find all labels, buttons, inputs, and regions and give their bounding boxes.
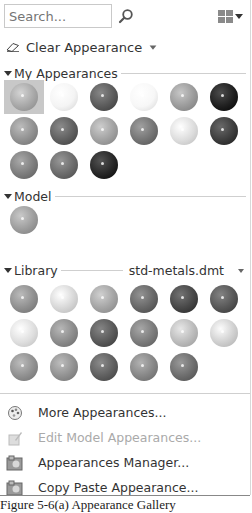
collapse-triangle-icon[interactable] <box>4 194 12 199</box>
menu-item-appearances-manager[interactable]: Appearances Manager... <box>0 450 250 475</box>
gallery-menu: More Appearances... Edit Model Appearanc… <box>0 400 250 500</box>
appearance-swatch[interactable] <box>84 148 124 182</box>
section-header-model[interactable]: Model <box>4 189 246 204</box>
search-icon[interactable] <box>118 8 134 24</box>
chevron-down-icon[interactable] <box>150 45 157 49</box>
clear-appearance-label: Clear Appearance <box>26 40 142 55</box>
sphere-icon <box>130 319 158 347</box>
appearance-gallery-panel: Clear Appearance My Appearances Model Li… <box>0 0 251 495</box>
eraser-icon <box>6 42 20 52</box>
appearance-swatch[interactable] <box>84 350 124 384</box>
sphere-icon <box>170 83 198 111</box>
appearance-swatch[interactable] <box>204 282 244 316</box>
appearance-swatch[interactable] <box>4 282 44 316</box>
sphere-icon <box>170 319 198 347</box>
section-header-my-appearances[interactable]: My Appearances <box>4 66 246 81</box>
chevron-down-icon[interactable] <box>238 269 244 273</box>
appearance-swatch[interactable] <box>44 350 84 384</box>
appearance-swatch[interactable] <box>84 114 124 148</box>
sphere-icon <box>130 83 158 111</box>
menu-item-edit-model-appearances[interactable]: Edit Model Appearances... <box>0 425 250 450</box>
appearance-swatch[interactable] <box>204 80 244 114</box>
sphere-icon <box>10 206 38 234</box>
section-header-library[interactable]: Library std-metals.dmt <box>4 263 246 278</box>
appearance-swatch[interactable] <box>84 316 124 350</box>
menu-item-more-appearances[interactable]: More Appearances... <box>0 400 250 425</box>
appearance-swatch[interactable] <box>124 350 164 384</box>
appearance-swatch[interactable] <box>164 282 204 316</box>
appearance-swatch[interactable] <box>4 148 44 182</box>
collapse-triangle-icon[interactable] <box>4 71 12 76</box>
collapse-triangle-icon[interactable] <box>4 268 12 273</box>
sphere-icon <box>50 285 78 313</box>
appearance-swatch[interactable] <box>4 80 44 114</box>
section-title: My Appearances <box>14 66 118 81</box>
sphere-icon <box>10 319 38 347</box>
library-grid <box>4 282 244 384</box>
sphere-icon <box>50 319 78 347</box>
sphere-icon <box>130 117 158 145</box>
figure-caption: Figure 5-6(a) Appearance Gallery <box>0 497 176 513</box>
sphere-icon <box>130 353 158 381</box>
sphere-icon <box>10 83 38 111</box>
sphere-icon <box>210 285 238 313</box>
search-input[interactable] <box>4 4 112 28</box>
section-title: Library <box>14 263 58 278</box>
appearance-swatch[interactable] <box>164 316 204 350</box>
copy-paste-icon <box>6 479 24 497</box>
sphere-icon <box>210 83 238 111</box>
menu-item-label: More Appearances... <box>38 405 166 420</box>
appearance-swatch[interactable] <box>44 80 84 114</box>
appearance-swatch[interactable] <box>4 203 44 237</box>
gallery-view-button[interactable] <box>218 8 246 24</box>
appearance-manager-icon <box>6 454 24 472</box>
menu-item-label: Appearances Manager... <box>38 455 189 470</box>
sphere-icon <box>90 319 118 347</box>
appearance-swatch[interactable] <box>44 316 84 350</box>
appearance-swatch[interactable] <box>4 114 44 148</box>
appearance-swatch[interactable] <box>204 114 244 148</box>
sphere-icon <box>50 353 78 381</box>
appearance-swatch[interactable] <box>164 80 204 114</box>
menu-divider <box>0 393 250 394</box>
appearance-swatch[interactable] <box>164 114 204 148</box>
edit-appearance-icon <box>6 429 24 447</box>
sphere-icon <box>210 117 238 145</box>
sphere-icon <box>50 151 78 179</box>
clear-appearance-button[interactable]: Clear Appearance <box>6 38 157 56</box>
appearance-swatch[interactable] <box>164 350 204 384</box>
sphere-icon <box>130 285 158 313</box>
appearance-swatch[interactable] <box>124 316 164 350</box>
sphere-icon <box>10 117 38 145</box>
menu-item-label: Edit Model Appearances... <box>38 430 201 445</box>
sphere-icon <box>90 285 118 313</box>
sphere-icon <box>170 117 198 145</box>
sphere-icon <box>10 151 38 179</box>
section-title: Model <box>14 189 52 204</box>
gallery-view-icon <box>218 10 233 23</box>
appearance-swatch[interactable] <box>44 282 84 316</box>
chevron-down-icon <box>235 14 243 19</box>
palette-icon <box>6 404 24 422</box>
sphere-icon <box>50 83 78 111</box>
appearance-swatch[interactable] <box>44 148 84 182</box>
appearance-swatch[interactable] <box>204 316 244 350</box>
appearance-swatch[interactable] <box>44 114 84 148</box>
appearance-swatch[interactable] <box>124 282 164 316</box>
divider <box>55 196 246 197</box>
sphere-icon <box>90 151 118 179</box>
library-file-select[interactable]: std-metals.dmt <box>129 263 224 278</box>
appearance-swatch[interactable] <box>4 350 44 384</box>
divider <box>61 270 123 271</box>
appearance-swatch[interactable] <box>84 282 124 316</box>
appearance-swatch[interactable] <box>4 316 44 350</box>
appearance-swatch[interactable] <box>124 114 164 148</box>
appearance-swatch[interactable] <box>124 80 164 114</box>
sphere-icon <box>210 319 238 347</box>
my-appearances-grid <box>4 80 244 182</box>
sphere-icon <box>90 117 118 145</box>
sphere-icon <box>90 353 118 381</box>
sphere-icon <box>170 353 198 381</box>
appearance-swatch[interactable] <box>84 80 124 114</box>
sphere-icon <box>10 285 38 313</box>
